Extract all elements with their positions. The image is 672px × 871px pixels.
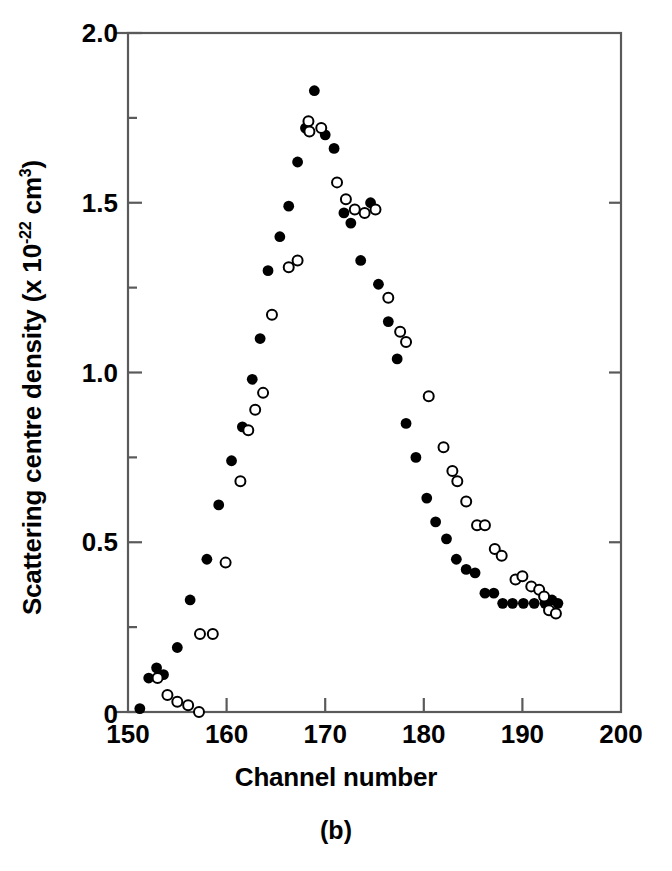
data-point-open (153, 673, 163, 683)
data-point-filled (345, 218, 356, 229)
y-axis-title-exponent-2: 3 (16, 168, 34, 177)
data-point-open (235, 476, 245, 486)
data-point-open (243, 425, 253, 435)
data-point-open (250, 405, 260, 415)
data-point-open (383, 293, 393, 303)
series-filled-markers (134, 85, 563, 714)
data-point-open (267, 310, 277, 320)
x-tick-label: 150 (106, 719, 149, 750)
figure-panel: Scattering centre density (x 10-22 cm3) … (0, 0, 672, 871)
data-point-filled (392, 354, 403, 365)
data-point-filled (247, 374, 258, 385)
data-point-filled (529, 598, 540, 609)
data-point-filled (201, 554, 212, 565)
data-point-open (162, 690, 172, 700)
data-point-filled (292, 157, 303, 168)
data-point-open (424, 391, 434, 401)
data-point-filled (355, 255, 366, 266)
data-point-open (551, 609, 561, 619)
data-point-open (480, 520, 490, 530)
x-tick-label: 200 (599, 719, 642, 750)
data-point-filled (274, 231, 285, 242)
data-point-open (284, 262, 294, 272)
data-point-open (332, 177, 342, 187)
data-point-open (195, 629, 205, 639)
data-point-filled (213, 500, 224, 511)
data-point-open (370, 205, 380, 215)
data-point-open (439, 442, 449, 452)
y-axis-title-exponent-1: -22 (16, 221, 34, 244)
x-axis-title: Channel number (0, 762, 672, 793)
data-point-open (303, 116, 313, 126)
data-point-filled (507, 598, 518, 609)
y-tick-label: 0.5 (40, 527, 118, 558)
y-tick-label: 1.5 (40, 187, 118, 218)
data-point-filled (411, 452, 422, 463)
x-tick-label: 180 (402, 719, 445, 750)
data-point-filled (309, 85, 320, 96)
data-point-open (395, 327, 405, 337)
data-point-filled (401, 418, 412, 429)
data-point-filled (329, 143, 340, 154)
y-axis-title-tail: ) (17, 160, 47, 168)
y-axis-title-lead: Scattering centre density (x 10 (17, 244, 47, 615)
data-point-open (517, 571, 527, 581)
data-point-open (401, 337, 411, 347)
data-point-open (461, 497, 471, 507)
data-point-open (258, 388, 268, 398)
data-point-open (183, 700, 193, 710)
figure-caption: (b) (0, 816, 672, 845)
data-point-filled (226, 455, 237, 466)
data-point-open (208, 629, 218, 639)
data-point-filled (518, 598, 529, 609)
data-point-filled (373, 279, 384, 290)
data-point-open (341, 194, 351, 204)
y-tick-label: 2.0 (40, 18, 118, 49)
series-open-markers (153, 116, 561, 717)
data-point-open (194, 707, 204, 717)
data-point-filled (134, 703, 145, 714)
data-point-open (293, 255, 303, 265)
data-point-filled (430, 516, 441, 527)
data-point-filled (421, 493, 432, 504)
data-point-open (539, 592, 549, 602)
data-point-filled (488, 588, 499, 599)
data-point-open (497, 551, 507, 561)
data-point-filled (339, 208, 350, 219)
y-tick-label: 1.0 (40, 357, 118, 388)
data-point-open (452, 476, 462, 486)
data-point-filled (283, 201, 294, 212)
data-point-open (316, 123, 326, 133)
data-point-filled (441, 533, 452, 544)
x-tick-label: 170 (303, 719, 346, 750)
x-tick-label: 190 (501, 719, 544, 750)
x-tick-label: 160 (205, 719, 248, 750)
data-point-filled (451, 554, 462, 565)
data-point-open (221, 558, 231, 568)
data-point-filled (185, 595, 196, 606)
data-point-filled (383, 316, 394, 327)
data-point-filled (255, 333, 266, 344)
data-point-open (360, 208, 370, 218)
data-point-filled (263, 265, 274, 276)
data-point-open (304, 126, 314, 136)
data-point-open (447, 466, 457, 476)
figure-caption-text: (b) (320, 816, 352, 844)
data-point-filled (497, 598, 508, 609)
data-point-filled (470, 567, 481, 578)
data-point-open (172, 697, 182, 707)
data-point-filled (172, 642, 183, 653)
data-point-open (350, 205, 360, 215)
